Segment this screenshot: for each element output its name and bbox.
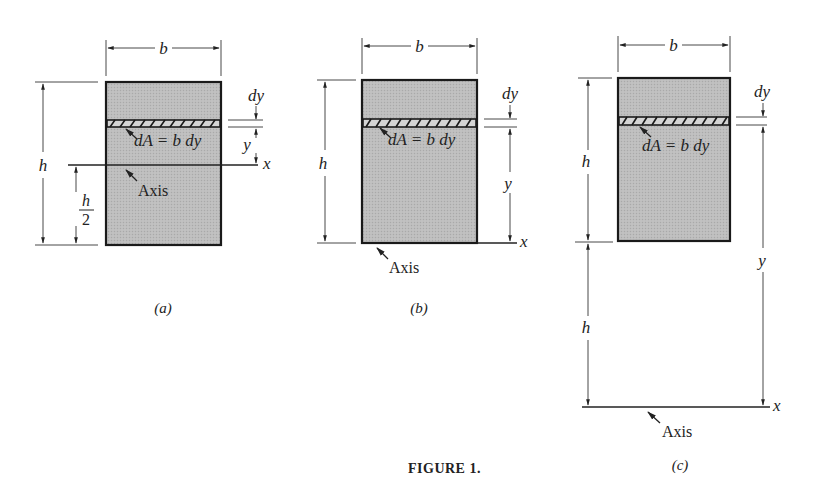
height-label: h — [39, 156, 48, 175]
half-height-dimension: h 2 — [76, 167, 94, 243]
differential-strip-b — [363, 119, 476, 127]
panel-a-label: (a) — [154, 300, 172, 317]
axis-x-label: x — [772, 396, 781, 415]
dy-label: dy — [502, 84, 519, 103]
y-dimension-b: y — [502, 129, 512, 241]
rectangle-cross-section — [618, 78, 730, 241]
width-label: b — [415, 37, 424, 56]
y-label: y — [241, 135, 251, 154]
offset-dimension-c: h — [582, 244, 591, 405]
dy-dimension-c: dy — [736, 82, 770, 125]
panel-a: b dA = b dy — [35, 39, 271, 317]
height-label: h — [319, 154, 328, 173]
width-label: b — [669, 36, 678, 55]
axis-pointer-arrow — [377, 248, 388, 259]
offset-label: h — [582, 318, 591, 337]
dy-dimension-b: dy — [484, 84, 518, 127]
half-height-numerator: h — [82, 192, 90, 209]
y-dimension-c: y — [756, 127, 766, 405]
axis-pointer-label: Axis — [389, 259, 419, 276]
dy-label: dy — [248, 86, 265, 105]
axis-pointer-arrow — [648, 412, 660, 423]
half-height-denominator: 2 — [82, 211, 90, 228]
y-label: y — [756, 251, 766, 270]
y-dimension-a: y — [241, 129, 256, 163]
panel-c-label: (c) — [672, 457, 689, 474]
strip-area-label: dA = b dy — [642, 136, 710, 155]
axis-x-label: x — [262, 154, 271, 173]
strip-area-label: dA = b dy — [388, 130, 456, 149]
panel-b-label: (b) — [410, 300, 428, 317]
axis-x-label: x — [519, 232, 528, 251]
panel-b: b dA = b dy — [317, 37, 528, 317]
rectangle-cross-section — [362, 80, 477, 243]
rectangle-cross-section — [106, 82, 221, 245]
differential-strip-c — [619, 117, 729, 125]
y-label: y — [502, 174, 512, 193]
width-dimension-b: b — [362, 37, 477, 74]
height-dimension-b: h — [317, 80, 356, 243]
figure-1-diagram: b dA = b dy — [0, 0, 815, 491]
axis-pointer-label: Axis — [138, 182, 168, 199]
height-label: h — [582, 152, 591, 171]
width-label: b — [159, 39, 168, 58]
width-dimension-c: b — [618, 36, 730, 72]
dy-dimension-a: dy — [228, 86, 264, 127]
axis-pointer-label: Axis — [662, 423, 692, 440]
height-dimension-c: h — [575, 78, 613, 242]
strip-area-label: dA = b dy — [134, 131, 202, 150]
width-dimension-a: b — [106, 39, 221, 76]
differential-strip-a — [107, 120, 220, 127]
dy-label: dy — [754, 82, 771, 101]
panel-c: b dA = b dy — [575, 36, 781, 474]
figure-caption: FIGURE 1. — [408, 461, 481, 476]
